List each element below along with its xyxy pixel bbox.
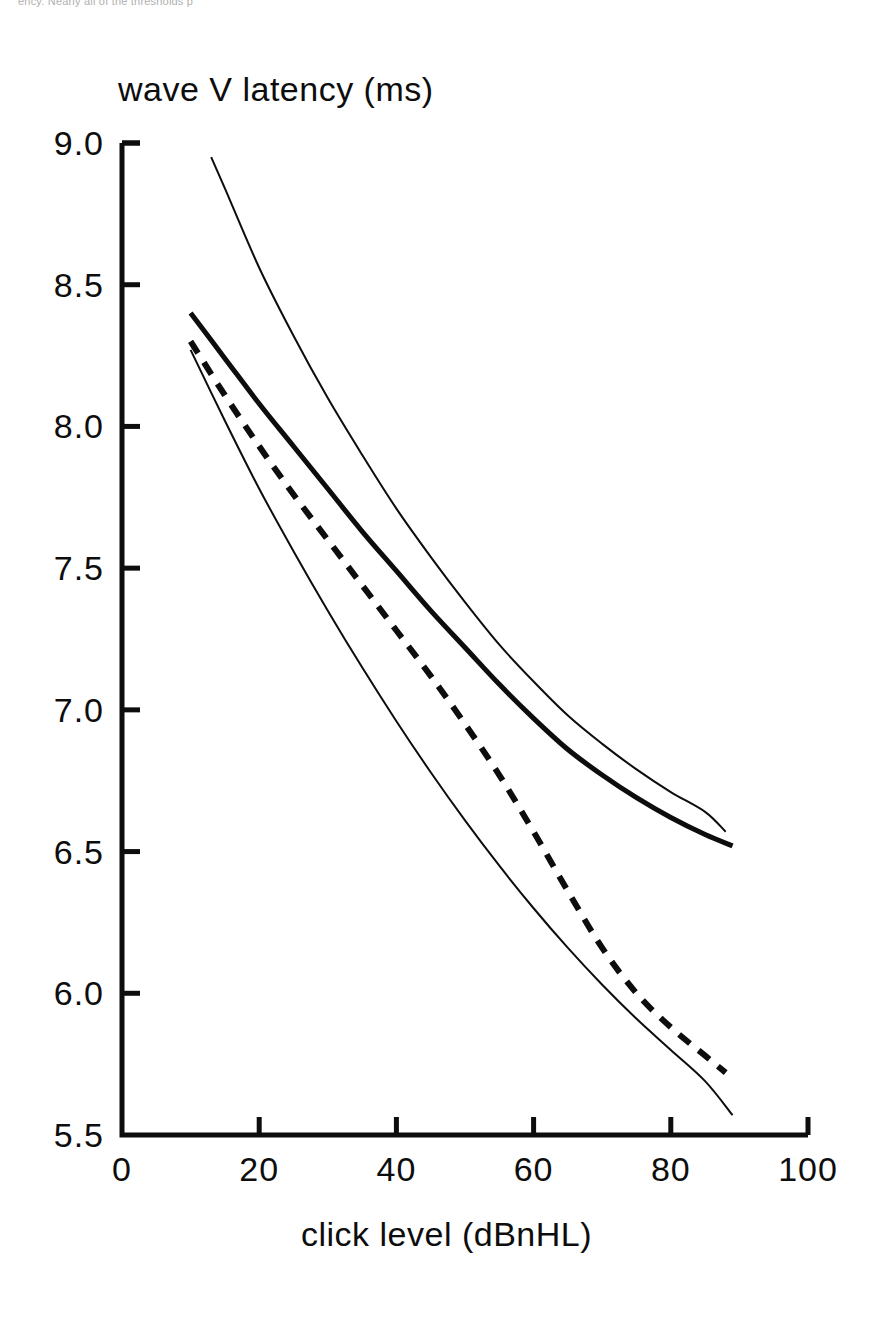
x-tick-label: 40: [336, 1150, 456, 1189]
figure-wave-v-latency: ency. Nearly all of the thresholds p wav…: [0, 0, 893, 1320]
x-tick-label: 20: [199, 1150, 319, 1189]
x-tick-labels: 020406080100: [0, 0, 893, 1320]
x-tick-label: 0: [62, 1150, 182, 1189]
x-tick-label: 100: [748, 1150, 868, 1189]
x-axis-title: click level (dBnHL): [0, 1215, 893, 1254]
x-tick-label: 60: [474, 1150, 594, 1189]
x-tick-label: 80: [611, 1150, 731, 1189]
